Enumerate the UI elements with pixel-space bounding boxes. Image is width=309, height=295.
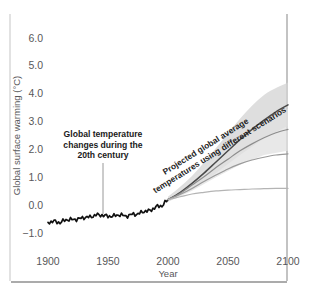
x-tick-label: 2050 — [216, 255, 240, 267]
y-axis-title: Global surface warming (°C) — [11, 76, 22, 195]
historical-annotation-line: changes during the — [63, 140, 142, 150]
x-tick-label: 2100 — [276, 255, 300, 267]
x-tick-label: 2000 — [156, 255, 180, 267]
y-tick-label: 6.0 — [28, 32, 43, 44]
y-tick-label: 5.0 — [28, 59, 43, 71]
y-tick-label: 0.0 — [28, 199, 43, 211]
historical-annotation-line: 20th century — [77, 150, 128, 160]
historical-annotation-line: Global temperature — [64, 129, 143, 139]
y-tick-label: 2.0 — [28, 143, 43, 155]
x-tick-label: 1950 — [96, 255, 120, 267]
y-tick-label: −1.0 — [22, 227, 43, 239]
x-axis-title: Year — [158, 268, 177, 279]
y-tick-label: 3.0 — [28, 115, 43, 127]
global-warming-chart: Global temperaturechanges during the20th… — [0, 0, 309, 295]
y-tick-label: 1.0 — [28, 171, 43, 183]
y-tick-label: 4.0 — [28, 87, 43, 99]
x-tick-label: 1900 — [36, 255, 60, 267]
chart-figure: Global temperaturechanges during the20th… — [0, 0, 309, 295]
